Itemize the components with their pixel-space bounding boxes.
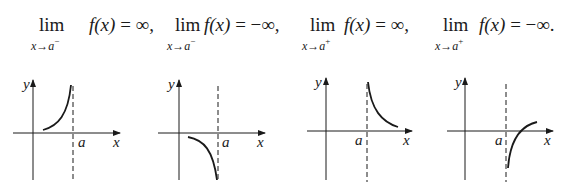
asymptote-label: a [355, 132, 363, 148]
asymptote-label: a [222, 134, 230, 150]
function-curve [368, 82, 398, 127]
graph-1: y a x [13, 76, 120, 182]
x-axis-label: x [112, 134, 120, 150]
y-axis-label: y [21, 76, 30, 92]
function-curve [188, 137, 217, 180]
y-axis-label: y [453, 74, 462, 90]
graph-4: y a x [447, 74, 553, 182]
y-axis-label: y [166, 76, 175, 92]
graph-3: y a x [307, 74, 412, 182]
x-axis-label: x [543, 132, 551, 148]
function-curve [508, 122, 537, 168]
x-axis-label: x [256, 134, 264, 150]
graph-2: y a x [158, 76, 265, 182]
y-axis-label: y [313, 74, 322, 90]
asymptote-label: a [495, 132, 503, 148]
asymptote-label: a [78, 134, 86, 150]
function-curve [43, 85, 71, 130]
graphs-canvas: y a x y a x y a x y a x [0, 0, 563, 194]
x-axis-label: x [402, 132, 410, 148]
